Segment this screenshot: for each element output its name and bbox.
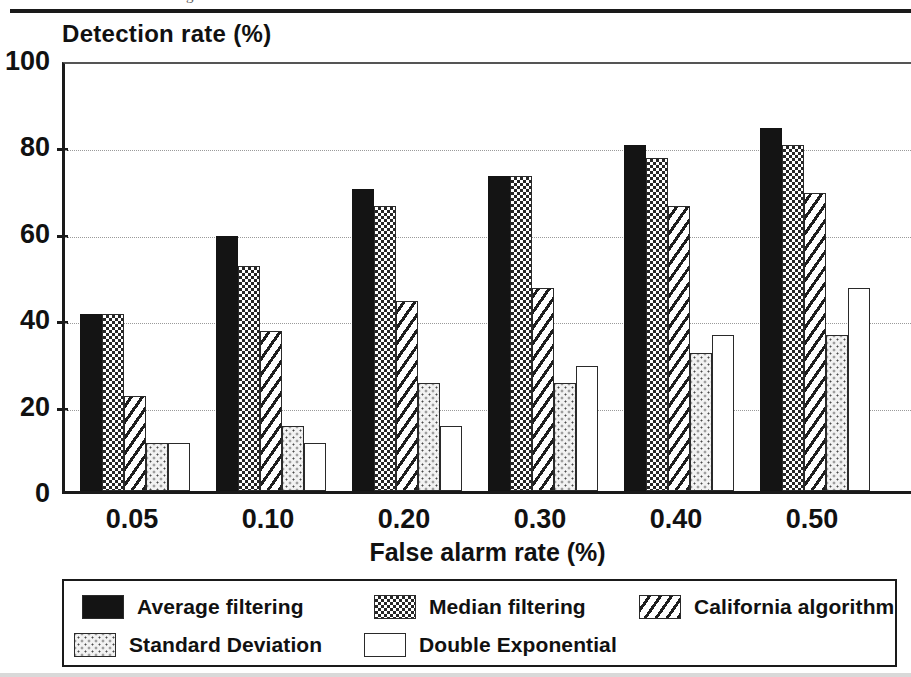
bar (668, 206, 690, 491)
bar (80, 314, 102, 491)
y-tick-label: 100 (0, 48, 50, 75)
x-tick-label: 0.50 (752, 504, 872, 535)
bar (848, 288, 870, 491)
top-horizontal-rule (10, 9, 911, 13)
bar (124, 396, 146, 491)
bar (146, 443, 168, 491)
x-tick-label: 0.05 (72, 504, 192, 535)
legend-item: Standard Deviation (74, 628, 322, 662)
caption-glyph-g: g (186, 0, 194, 4)
caption-glyph-1: 1 (560, 0, 568, 4)
plot-area (62, 62, 911, 494)
y-axis-title: Detection rate (%) (62, 20, 271, 48)
x-tick-label: 0.40 (616, 504, 736, 535)
legend-label: Average filtering (137, 595, 304, 619)
y-tick-label: 60 (0, 221, 50, 248)
caption-remnant: g 1 (0, 0, 911, 9)
legend-swatch (374, 595, 416, 619)
bar-group (488, 64, 598, 491)
bar (804, 193, 826, 491)
legend-item: Double Exponential (364, 628, 617, 662)
x-tick-label: 0.30 (480, 504, 600, 535)
bottom-rule (0, 673, 911, 677)
y-tick-label: 20 (0, 394, 50, 421)
bar (418, 383, 440, 491)
bar (712, 335, 734, 491)
bar (488, 176, 510, 491)
bar (646, 158, 668, 491)
bar-group (80, 64, 190, 491)
bar (440, 426, 462, 491)
y-tick-label: 0 (0, 480, 50, 507)
x-axis-title: False alarm rate (%) (62, 538, 911, 567)
bar (102, 314, 124, 491)
legend-label: Median filtering (429, 595, 586, 619)
legend-swatch (639, 595, 681, 619)
legend-row: Average filteringMedian filteringCalifor… (64, 590, 895, 624)
bar (374, 206, 396, 491)
bar (510, 176, 532, 491)
legend-label: California algorithm (694, 595, 894, 619)
bar (532, 288, 554, 491)
legend-label: Double Exponential (419, 633, 617, 657)
legend-row: Standard DeviationDouble Exponential (64, 628, 895, 662)
bar (238, 266, 260, 491)
bar (216, 236, 238, 491)
bar (304, 443, 326, 491)
bar (282, 426, 304, 491)
bar (352, 189, 374, 491)
x-tick-label: 0.10 (208, 504, 328, 535)
y-tick-label: 40 (0, 307, 50, 334)
bar (396, 301, 418, 491)
x-tick-label: 0.20 (344, 504, 464, 535)
bar (168, 443, 190, 491)
legend-swatch (74, 633, 116, 657)
bar (782, 145, 804, 491)
legend-swatch (364, 633, 406, 657)
bar-group (624, 64, 734, 491)
legend-item: Median filtering (374, 590, 586, 624)
legend-label: Standard Deviation (129, 633, 322, 657)
y-tick-label: 80 (0, 134, 50, 161)
legend-item: Average filtering (82, 590, 304, 624)
bar-group (760, 64, 870, 491)
bar (576, 366, 598, 491)
legend-item: California algorithm (639, 590, 894, 624)
bar (760, 128, 782, 491)
bar (690, 353, 712, 491)
bar (624, 145, 646, 491)
legend: Average filteringMedian filteringCalifor… (62, 579, 897, 667)
legend-swatch (82, 595, 124, 619)
bar-group (216, 64, 326, 491)
bar (826, 335, 848, 491)
bar (554, 383, 576, 491)
bar-chart: Detection rate (%) 020406080100 0.050.10… (0, 16, 911, 546)
bar (260, 331, 282, 491)
bar-group (352, 64, 462, 491)
